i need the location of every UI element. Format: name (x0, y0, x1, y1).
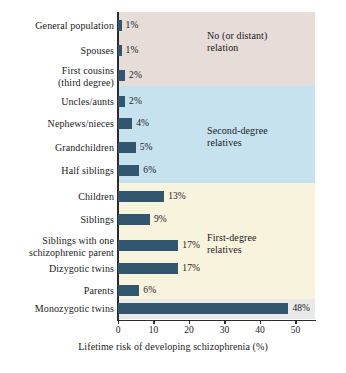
group-label-line1: First-degree (207, 232, 257, 243)
category-label-line2: (third degree) (0, 77, 114, 89)
category-label: Uncles/aunts (0, 96, 114, 108)
category-label-line1: Half siblings (61, 165, 114, 176)
category-label-line2: schizophrenic parent (0, 247, 114, 259)
group-label: Second-degreerelatives (207, 125, 268, 149)
bar-value-label: 2% (129, 70, 142, 81)
group-label: First-degreerelatives (207, 232, 257, 256)
group-label-line2: relation (207, 42, 267, 54)
x-axis-tick (295, 320, 296, 324)
x-axis-tick-label: 40 (255, 325, 265, 336)
category-label-line1: Spouses (81, 45, 114, 56)
category-label-line1: Siblings (80, 214, 114, 225)
bar (118, 45, 122, 56)
bar (118, 285, 139, 296)
x-axis-tick-label: 50 (291, 325, 301, 336)
bar (118, 96, 125, 107)
category-label-line1: Parents (84, 285, 114, 296)
bar-value-label: 48% (292, 303, 310, 314)
group-label-line1: No (or distant) (207, 30, 267, 41)
category-label-line1: First cousins (62, 65, 114, 76)
x-axis-title: Lifetime risk of developing schizophreni… (0, 341, 346, 352)
bar (118, 303, 288, 314)
bar-value-label: 13% (168, 191, 186, 202)
category-label: General population (0, 20, 114, 32)
bar (118, 20, 122, 31)
category-label-line1: General population (35, 20, 114, 31)
x-axis-tick (118, 320, 119, 324)
bar (118, 142, 136, 153)
bar-value-label: 2% (129, 96, 142, 107)
bar (118, 263, 178, 274)
bar-value-label: 4% (136, 118, 149, 129)
category-label: Dizygotic twins (0, 263, 114, 275)
x-axis-line (117, 320, 316, 321)
category-label: Monozygotic twins (0, 303, 114, 315)
category-label-line1: Children (78, 191, 114, 202)
category-label: Spouses (0, 45, 114, 57)
x-axis-tick-label: 0 (116, 325, 121, 336)
bar-value-label: 17% (182, 240, 200, 251)
x-axis-tick-label: 30 (220, 325, 230, 336)
category-label: Grandchildren (0, 142, 114, 154)
x-axis-tick (189, 320, 190, 324)
category-label-line1: Siblings with one (42, 235, 114, 246)
group-label-line1: Second-degree (207, 125, 268, 136)
x-axis-tick (260, 320, 261, 324)
category-label: Siblings with oneschizophrenic parent (0, 235, 114, 258)
bar (118, 70, 125, 81)
bar (118, 191, 164, 202)
bar-value-label: 1% (126, 20, 139, 31)
bar-value-label: 1% (126, 45, 139, 56)
category-label: Children (0, 191, 114, 203)
category-label: Parents (0, 285, 114, 297)
schizophrenia-risk-chart: 1%1%2%2%4%5%6%13%9%17%17%6%48% General p… (0, 0, 346, 373)
category-label-line1: Dizygotic twins (49, 263, 114, 274)
bar (118, 214, 150, 225)
bar (118, 118, 132, 129)
x-axis-tick (224, 320, 225, 324)
x-axis-tick (153, 320, 154, 324)
x-axis-tick-label: 10 (149, 325, 159, 336)
group-label-line2: relatives (207, 244, 257, 256)
category-label-line1: Uncles/aunts (61, 96, 114, 107)
bar (118, 240, 178, 251)
category-label: First cousins(third degree) (0, 65, 114, 88)
group-label: No (or distant)relation (207, 30, 267, 54)
bar-value-label: 6% (143, 285, 156, 296)
bar-value-label: 9% (154, 214, 167, 225)
category-label-line1: Grandchildren (55, 142, 114, 153)
bar-value-label: 5% (140, 142, 153, 153)
x-axis-tick-label: 20 (184, 325, 194, 336)
category-label: Nephews/nieces (0, 118, 114, 130)
category-label: Half siblings (0, 165, 114, 177)
bar-value-label: 17% (182, 263, 200, 274)
category-label-line1: Nephews/nieces (48, 118, 114, 129)
group-label-line2: relatives (207, 137, 268, 149)
category-label-line1: Monozygotic twins (35, 303, 114, 314)
bar (118, 165, 139, 176)
category-label: Siblings (0, 214, 114, 226)
bar-value-label: 6% (143, 165, 156, 176)
